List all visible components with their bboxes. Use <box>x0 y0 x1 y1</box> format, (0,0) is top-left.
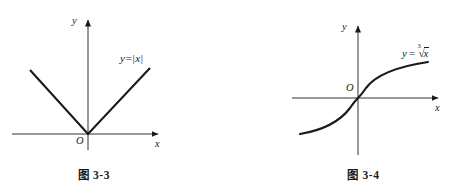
radical-index: 3 <box>418 43 421 50</box>
curve-label-cube-root: y = 3√x <box>402 47 429 59</box>
radicand: x <box>424 47 430 59</box>
origin-label: O <box>76 136 84 147</box>
figure-caption-left: 图 3-3 <box>0 166 208 182</box>
figure-page: y x O y =|x| 图 3-3 <box>0 0 455 193</box>
origin-label: O <box>346 83 354 94</box>
curve-label-absolute-value: y =|x| <box>120 53 143 64</box>
y-axis-label: y <box>72 16 77 27</box>
y-axis-label: y <box>342 22 347 33</box>
figure-cube-root: y x O y = 3√x 图 3-4 <box>228 0 455 193</box>
curve-absolute-value <box>30 68 150 134</box>
x-axis-label: x <box>435 103 440 114</box>
plot-absolute-value <box>0 0 228 165</box>
cube-root-radical: 3√x <box>418 47 430 59</box>
figure-caption-right: 图 3-4 <box>250 166 455 182</box>
x-axis-label: x <box>155 139 160 150</box>
figure-absolute-value: y x O y =|x| 图 3-3 <box>0 0 228 193</box>
curve-label-abs-close: | <box>140 53 143 64</box>
